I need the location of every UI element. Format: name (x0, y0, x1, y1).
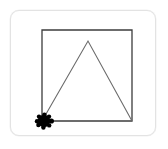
screenshot-root (0, 0, 168, 149)
drawing-surface[interactable] (11, 11, 157, 137)
triangle-shape (42, 41, 132, 121)
turtle-graphics-canvas[interactable] (10, 10, 156, 136)
turtle-body (38, 115, 50, 127)
turtle-cursor[interactable] (35, 112, 54, 129)
